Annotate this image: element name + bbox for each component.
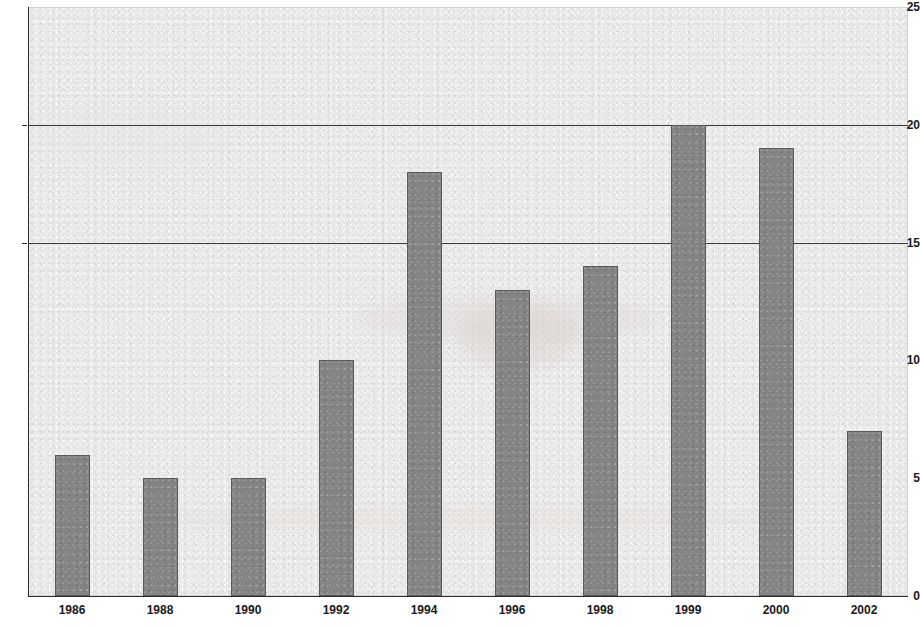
- bar-1992[interactable]: [319, 360, 354, 596]
- y-tick-mark-20: [22, 125, 27, 126]
- y-tick-label-15: 15: [896, 237, 920, 249]
- x-tick-label-1998: 1998: [587, 604, 614, 616]
- bar-1999[interactable]: [671, 125, 706, 596]
- x-tick-label-1988: 1988: [147, 604, 174, 616]
- y-tick-label-20: 20: [896, 119, 920, 131]
- x-tick-label-1999: 1999: [675, 604, 702, 616]
- bar-2000[interactable]: [759, 148, 794, 596]
- x-tick-label-2000: 2000: [763, 604, 790, 616]
- bar-chart: 25 20 15 10 5 0 1986 1988 1990 1992 1994…: [0, 0, 920, 627]
- y-axis-line: [28, 7, 29, 596]
- y-tick-mark-15: [22, 243, 27, 244]
- x-tick-label-1996: 1996: [499, 604, 526, 616]
- x-tick-label-1990: 1990: [235, 604, 262, 616]
- scan-artifact: [28, 107, 228, 167]
- bar-1988[interactable]: [143, 478, 178, 596]
- bar-1990[interactable]: [231, 478, 266, 596]
- y-tick-label-5: 5: [896, 472, 920, 484]
- x-tick-label-1992: 1992: [323, 604, 350, 616]
- x-tick-label-1986: 1986: [59, 604, 86, 616]
- x-tick-label-2002: 2002: [851, 604, 878, 616]
- x-tick-label-1994: 1994: [411, 604, 438, 616]
- gridline-20: [28, 125, 908, 126]
- y-tick-label-10: 10: [896, 354, 920, 366]
- y-tick-label-0: 0: [896, 590, 920, 602]
- bar-2002[interactable]: [847, 431, 882, 596]
- bar-1998[interactable]: [583, 266, 618, 596]
- bar-1996[interactable]: [495, 290, 530, 596]
- y-tick-label-25: 25: [896, 1, 920, 13]
- bar-1994[interactable]: [407, 172, 442, 596]
- x-axis-line: [28, 596, 908, 597]
- bar-1986[interactable]: [55, 455, 90, 596]
